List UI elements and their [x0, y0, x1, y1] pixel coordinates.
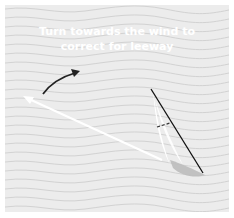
- caption: Turn towards the wind to correct for lee…: [5, 24, 229, 54]
- caption-line-1: Turn towards the wind to: [5, 24, 229, 39]
- caption-line-2: correct for leeway: [5, 39, 229, 54]
- curved-arrow-icon: [43, 69, 80, 94]
- heading-arrow-icon: [23, 96, 162, 160]
- sailboat-icon: [151, 89, 205, 177]
- diagram-frame: Turn towards the wind to correct for lee…: [5, 5, 229, 212]
